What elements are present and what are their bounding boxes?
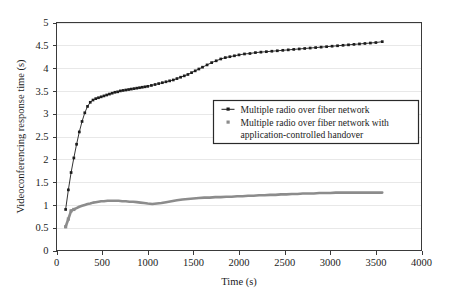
x-tick-label: 3000 [320,257,341,268]
chart-figure: 05001000150020002500300035004000 00.511.… [0,0,449,298]
x-axis-title: Time (s) [221,276,257,288]
legend-marker-square [227,108,230,111]
legend-label: application-controlled handover [241,129,365,140]
x-tick-label: 4000 [411,257,432,268]
y-tick-label: 5 [43,17,48,28]
y-axis-title: Videoconferencing response time (s) [15,59,27,214]
y-tick-label: 1 [43,200,48,211]
x-tick-label: 500 [94,257,110,268]
y-tick-label: 3 [43,108,48,119]
x-tick-label: 1000 [137,257,158,268]
x-tick-label: 2000 [229,257,250,268]
x-tick-label: 2500 [274,257,295,268]
y-tick-label: 2.5 [35,131,48,142]
y-tick-label: 3.5 [35,86,48,97]
chart-legend: Multiple radio over fiber networkMultipl… [214,101,419,144]
y-tick-label: 4 [43,63,49,74]
legend-label: Multiple radio over fiber network [241,104,370,115]
chart-canvas: 05001000150020002500300035004000 00.511.… [0,0,449,298]
y-tick-label: 1.5 [35,177,48,188]
x-tick-label: 1500 [183,257,204,268]
y-tick-label: 2 [43,154,48,165]
x-tick-label: 0 [54,257,59,268]
y-tick-label: 0 [43,245,48,256]
chart-background [0,0,449,298]
y-tick-label: 0.5 [35,222,48,233]
legend-marker-square [227,121,230,124]
y-tick-label: 4.5 [35,40,48,51]
x-tick-label: 3500 [365,257,386,268]
legend-label: Multiple radio over fiber network with [241,117,390,128]
